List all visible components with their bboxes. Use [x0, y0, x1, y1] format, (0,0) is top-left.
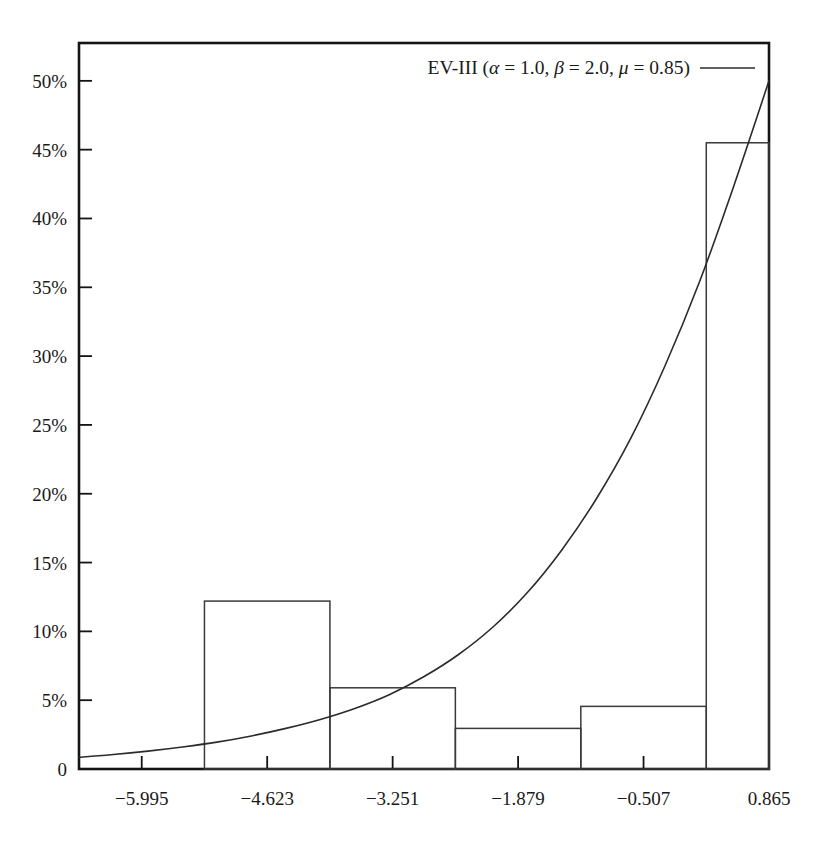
- y-tick-label: 10%: [32, 621, 67, 642]
- y-tick-label: 35%: [32, 277, 67, 298]
- y-tick-label: 40%: [32, 208, 67, 229]
- x-tick-label: −0.507: [617, 788, 670, 809]
- legend-entry-label: EV-III (α = 1.0, β = 2.0, μ = 0.85): [428, 57, 690, 79]
- x-tick-label: −4.623: [240, 788, 293, 809]
- y-tick-label: 15%: [32, 553, 67, 574]
- y-tick-label: 20%: [32, 484, 67, 505]
- y-tick-label: 25%: [32, 415, 67, 436]
- x-tick-label: −5.995: [115, 788, 168, 809]
- y-tick-label: 5%: [42, 690, 68, 711]
- x-tick-label: 0.865: [748, 788, 791, 809]
- x-tick-label: −1.879: [491, 788, 544, 809]
- y-tick-label: 0: [58, 759, 68, 780]
- chart-container: 05%10%15%20%25%30%35%40%45%50% −5.995−4.…: [0, 0, 824, 850]
- y-tick-label: 50%: [32, 71, 67, 92]
- y-tick-label: 45%: [32, 140, 67, 161]
- figure-background: [0, 0, 824, 850]
- histogram-with-fitted-curve: 05%10%15%20%25%30%35%40%45%50% −5.995−4.…: [0, 0, 824, 850]
- y-tick-label: 30%: [32, 346, 67, 367]
- x-tick-label: −3.251: [366, 788, 419, 809]
